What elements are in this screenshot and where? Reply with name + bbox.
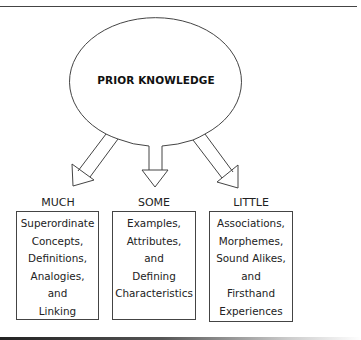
arrow-some-icon: [142, 146, 168, 187]
box-line: Morphemes,: [210, 233, 292, 251]
box-line: and: [113, 250, 195, 268]
box-line: Analogies,: [17, 268, 98, 286]
center-node-label: PRIOR KNOWLEDGE: [70, 74, 242, 86]
box-line: and: [210, 268, 292, 286]
branch-box-little: Associations, Morphemes, Sound Alikes, a…: [209, 211, 293, 322]
box-line: Definitions,: [17, 250, 98, 268]
branch-label-some: SOME: [112, 196, 196, 209]
branch-box-some: Examples, Attributes, and Defining Chara…: [112, 211, 196, 320]
box-line: Examples,: [113, 215, 195, 233]
arrow-little-icon: [193, 134, 238, 188]
box-line: Sound Alikes,: [210, 250, 292, 268]
box-line: Superordinate: [17, 215, 98, 233]
box-line: Associations,: [210, 215, 292, 233]
box-line: Defining: [113, 268, 195, 286]
branch-label-much: MUCH: [16, 196, 100, 209]
branch-box-much: Superordinate Concepts, Definitions, Ana…: [16, 211, 99, 320]
box-line: Characteristics: [113, 285, 195, 303]
box-line: Concepts,: [17, 233, 98, 251]
box-line: and: [17, 285, 98, 303]
box-line: Attributes,: [113, 233, 195, 251]
box-line: Linking: [17, 303, 98, 321]
arrow-much-icon: [72, 134, 118, 186]
box-line: Experiences: [210, 303, 292, 321]
branch-label-little: LITTLE: [209, 196, 293, 209]
box-line: Firsthand: [210, 285, 292, 303]
